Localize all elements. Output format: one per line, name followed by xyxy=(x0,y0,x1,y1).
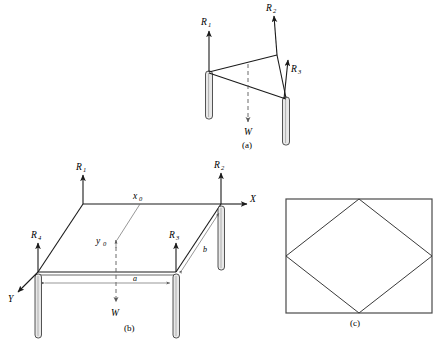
panel-b-label-R3-sub: 3 xyxy=(175,234,180,241)
panel-a-caption: (a) xyxy=(242,140,252,150)
panel-a-label-W: W xyxy=(244,127,253,137)
panel-b-label-Y: Y xyxy=(8,294,15,304)
panel-b-force-R3: R 3 xyxy=(168,230,180,272)
panel-a-leg-right xyxy=(283,97,290,145)
panel-b-platform xyxy=(38,204,221,275)
panel-a-leg-left xyxy=(206,71,213,119)
panel-a: R 1 R 2 R 3 W (a) xyxy=(200,3,302,150)
panel-b-axis-Y: Y xyxy=(8,272,38,304)
panel-b-leg-back-right xyxy=(218,206,225,270)
panel-b-label-x0-sub: 0 xyxy=(139,195,143,202)
panel-a-force-R1: R 1 xyxy=(200,17,211,72)
panel-c-caption: (c) xyxy=(350,318,360,328)
panel-b-force-R2: R 2 xyxy=(213,160,225,204)
panel-b-leg-front-left xyxy=(35,274,42,338)
panel-b-label-R1: R xyxy=(75,162,82,172)
panel-b-label-y0-sub: 0 xyxy=(103,240,107,247)
panel-a-force-R2: R 2 xyxy=(265,3,277,55)
panel-a-label-R3-sub: 3 xyxy=(297,68,302,75)
panel-b-weight-W: W xyxy=(111,240,120,318)
panel-b-force-R1: R 1 xyxy=(75,162,86,204)
panel-a-label-R2-sub: 2 xyxy=(273,7,277,14)
panel-b-label-X: X xyxy=(249,194,257,204)
panel-b-label-R2-sub: 2 xyxy=(221,164,225,171)
panel-b-coord-x0: x 0 xyxy=(117,191,143,240)
panel-b-coord-y0: y 0 xyxy=(95,236,116,248)
panel-a-label-R1-sub: 1 xyxy=(208,21,211,28)
panel-b-label-R1-sub: 1 xyxy=(83,166,86,173)
panel-a-label-R3: R xyxy=(290,64,297,74)
panel-b: R 1 R 2 R 3 R 4 xyxy=(8,160,257,338)
panel-b-axis-X: X xyxy=(221,194,257,204)
panel-b-label-R4-sub: 4 xyxy=(38,234,42,241)
panel-c-inscribed-rhombus xyxy=(286,199,432,313)
panel-b-label-a: a xyxy=(133,274,137,283)
panel-b-label-R4: R xyxy=(30,230,37,240)
panel-a-force-R3: R 3 xyxy=(284,60,302,99)
panel-b-caption: (b) xyxy=(124,323,135,333)
panel-a-label-R2: R xyxy=(265,3,272,13)
panel-c: (c) xyxy=(286,199,432,328)
panel-b-dimension-b: b xyxy=(182,213,219,270)
figure-canvas: R 1 R 2 R 3 W (a) xyxy=(0,0,438,344)
panel-b-label-x0: x xyxy=(132,191,138,201)
figure-root: R 1 R 2 R 3 W (a) xyxy=(0,0,438,344)
panel-c-outer-rectangle xyxy=(286,199,432,313)
panel-b-label-R3: R xyxy=(168,230,175,240)
panel-b-label-y0: y xyxy=(95,236,101,246)
panel-b-leg-front-right xyxy=(173,274,180,338)
panel-b-label-b: b xyxy=(203,245,207,254)
panel-a-frame xyxy=(209,55,286,99)
panel-a-label-R1: R xyxy=(200,17,207,27)
panel-b-label-W: W xyxy=(111,308,120,318)
panel-a-weight-W: W xyxy=(244,64,253,137)
panel-b-label-R2: R xyxy=(213,160,220,170)
panel-b-force-R4: R 4 xyxy=(30,230,42,272)
